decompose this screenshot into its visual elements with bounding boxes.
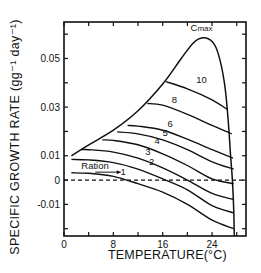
x-tick-label: 0: [61, 239, 67, 250]
y-tick-label: 0.01: [41, 150, 61, 161]
curve-label-8: 8: [172, 94, 177, 105]
curve-label-cmax: Cmax: [191, 22, 213, 33]
x-tick-label: 8: [111, 239, 117, 250]
curve-label-6: 6: [167, 118, 172, 129]
curve-label-4: 4: [155, 135, 160, 146]
curve-label-1: 1: [121, 166, 126, 177]
ration-annotation-text: Ration: [81, 160, 108, 171]
ration-curve-5: [117, 132, 234, 169]
curve-label-10: 10: [196, 74, 207, 85]
ration-curves: [71, 82, 233, 229]
curve-label-2: 2: [149, 156, 154, 167]
y-tick-label: 0.03: [41, 102, 61, 113]
y-tick-label: 0: [54, 175, 60, 186]
curve-labels: 123456810Cmax: [121, 22, 213, 178]
y-tick-label: -0.01: [37, 199, 60, 210]
x-tick-label: 16: [157, 239, 169, 250]
ration-curve-1: [71, 173, 233, 229]
curve-label-3: 3: [145, 146, 150, 157]
y-axis-ticks: 0.050.030.010-0.01: [37, 34, 246, 229]
y-tick-label: 0.05: [41, 53, 61, 64]
x-tick-label: 24: [207, 239, 219, 250]
ration-curve-6: [128, 125, 234, 158]
chart-canvas: 081624 0.050.030.010-0.01 123456810Cmax …: [0, 0, 261, 273]
